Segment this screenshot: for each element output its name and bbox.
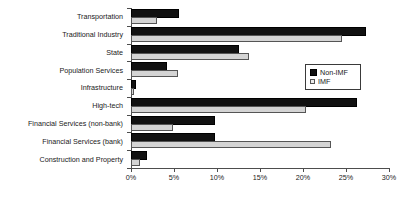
bar-group <box>131 132 389 150</box>
category-label: Financial Services (bank) <box>0 132 127 150</box>
category-tick <box>127 61 131 62</box>
category-tick <box>127 8 131 9</box>
bar-chart: TransportationTraditional IndustryStateP… <box>0 0 397 197</box>
bar-imf <box>131 70 178 77</box>
value-tick <box>131 168 132 172</box>
bar-group <box>131 8 389 26</box>
legend-entry: Non-IMF <box>310 68 356 77</box>
category-tick <box>127 150 131 151</box>
bar-imf <box>131 124 173 131</box>
bar-group <box>131 44 389 62</box>
category-tick <box>127 79 131 80</box>
category-tick <box>127 115 131 116</box>
category-tick <box>127 97 131 98</box>
value-tick-label: 15% <box>253 174 267 181</box>
value-tick <box>174 168 175 172</box>
category-axis: TransportationTraditional IndustryStateP… <box>0 8 127 168</box>
category-tick <box>127 44 131 45</box>
legend-swatch-icon <box>310 69 317 76</box>
bar-group <box>131 150 389 168</box>
bar-group <box>131 115 389 133</box>
value-tick-label: 0% <box>126 174 136 181</box>
category-tick <box>127 26 131 27</box>
bar-group <box>131 26 389 44</box>
bar-imf <box>131 17 157 24</box>
bar-imf <box>131 159 140 166</box>
bar-imf <box>131 141 331 148</box>
category-tick <box>127 132 131 133</box>
value-tick <box>217 168 218 172</box>
value-tick <box>389 168 390 172</box>
bar-imf <box>131 53 249 60</box>
value-tick <box>303 168 304 172</box>
value-tick-label: 5% <box>169 174 179 181</box>
legend-label: Non-IMF <box>320 69 348 76</box>
category-label: High-tech <box>0 97 127 115</box>
category-label: State <box>0 44 127 62</box>
category-label: Population Services <box>0 61 127 79</box>
bar-imf <box>131 106 306 113</box>
bar-imf <box>131 35 342 42</box>
value-tick-label: 20% <box>296 174 310 181</box>
value-tick-label: 10% <box>210 174 224 181</box>
legend-entry: IMF <box>310 77 356 86</box>
bar-group <box>131 97 389 115</box>
legend-label: IMF <box>318 78 330 85</box>
category-label: Infrastructure <box>0 79 127 97</box>
category-label: Construction and Property <box>0 150 127 168</box>
value-tick <box>346 168 347 172</box>
value-tick-label: 30% <box>382 174 396 181</box>
value-tick <box>260 168 261 172</box>
category-label: Transportation <box>0 8 127 26</box>
bar-imf <box>131 88 134 95</box>
category-label: Traditional Industry <box>0 26 127 44</box>
value-tick-label: 25% <box>339 174 353 181</box>
legend-swatch-icon <box>310 79 315 84</box>
category-label: Financial Services (non-bank) <box>0 115 127 133</box>
legend: Non-IMFIMF <box>305 64 361 90</box>
